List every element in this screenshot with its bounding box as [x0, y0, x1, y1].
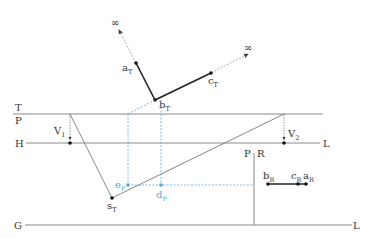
label-bR: bR	[263, 170, 275, 184]
projection-diagram: T P H L G L P R ∞ ∞ aT bT cT eP dP sT V1…	[0, 0, 371, 238]
label-P: P	[15, 115, 22, 126]
label-cT: cT	[208, 75, 219, 89]
label-G: G	[14, 220, 22, 231]
label-V2: V2	[287, 128, 299, 142]
label-H: H	[15, 138, 24, 149]
label-L-H: L	[323, 138, 330, 149]
line-V1-sT	[70, 114, 112, 198]
label-PR-P: P	[244, 148, 251, 159]
point-aR	[304, 182, 308, 186]
point-aT	[134, 61, 138, 65]
label-L-G: L	[353, 220, 360, 231]
infinity-label-1: ∞	[111, 17, 119, 28]
label-sT: sT	[107, 200, 117, 214]
label-cR: cR	[291, 170, 303, 184]
segment-aT-bT	[136, 63, 155, 100]
blue-diag-bT	[128, 100, 155, 114]
label-V1: V1	[53, 125, 65, 139]
point-eP	[126, 183, 130, 187]
label-aR: aR	[303, 170, 315, 184]
label-aT: aT	[122, 62, 133, 76]
ray-a-infinity	[119, 30, 136, 63]
point-dP	[159, 183, 163, 187]
ray-c-infinity	[211, 54, 248, 73]
label-T: T	[15, 102, 22, 113]
label-eP: eP	[115, 179, 126, 193]
point-V2	[282, 141, 286, 145]
infinity-label-2: ∞	[244, 42, 252, 53]
label-dP: dP	[156, 189, 167, 203]
point-V1	[68, 141, 72, 145]
label-PR-R: R	[257, 148, 265, 159]
segment-bT-cT	[155, 73, 211, 100]
